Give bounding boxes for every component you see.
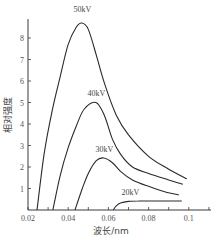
y-tick-label: 2 — [20, 163, 24, 172]
x-tick-label: 0.08 — [142, 214, 156, 223]
x-tick-label: 0.06 — [101, 214, 115, 223]
curves — [37, 23, 187, 210]
curve-50kV — [37, 23, 187, 210]
y-tick-label: 6 — [20, 77, 24, 86]
curve-label-50kV: 50kV — [73, 5, 91, 14]
y-tick-label: 4 — [20, 120, 24, 129]
x-tick-label: 0.04 — [61, 214, 75, 223]
y-tick-label: 5 — [20, 99, 24, 108]
y-tick-label: 3 — [20, 142, 24, 151]
x-axis-title: 波长/nm — [93, 225, 129, 236]
x-tick-label: 0.02 — [21, 214, 35, 223]
curve-label-20kV: 20kV — [122, 188, 140, 197]
curve-labels: 50kV40kV30kV20kV — [73, 5, 139, 197]
y-tick-label: 7 — [20, 56, 24, 65]
y-axis-title: 相对强度 — [2, 97, 13, 133]
y-tick-label: 8 — [20, 34, 24, 43]
y-tick-label: 1 — [20, 185, 24, 194]
curve-label-40kV: 40kV — [87, 89, 105, 98]
curve-label-30kV: 30kV — [95, 145, 113, 154]
x-tick-label: 0.1 — [184, 214, 194, 223]
curve-20kV — [113, 201, 182, 210]
spectrum-chart: 0.020.040.060.080.112345678 50kV40kV30kV… — [0, 0, 221, 241]
axes: 0.020.040.060.080.112345678 — [20, 19, 211, 223]
